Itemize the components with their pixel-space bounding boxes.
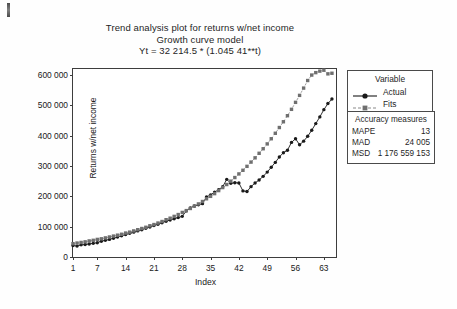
data-point bbox=[241, 169, 244, 172]
x-tick-mark bbox=[296, 257, 297, 260]
y-tick-label: 300 000 bbox=[38, 161, 68, 171]
data-point bbox=[71, 242, 74, 245]
data-point bbox=[112, 234, 115, 237]
data-point bbox=[302, 86, 305, 89]
data-point bbox=[108, 235, 111, 238]
data-point bbox=[233, 181, 236, 184]
x-tick-label: 42 bbox=[234, 263, 243, 273]
data-point bbox=[306, 135, 309, 138]
data-point bbox=[79, 241, 82, 244]
accuracy-key-msd: MSD bbox=[352, 148, 370, 159]
legend-item-actual[interactable]: Actual bbox=[352, 86, 428, 98]
data-point bbox=[314, 71, 317, 74]
data-point bbox=[282, 120, 285, 123]
data-point bbox=[274, 161, 277, 164]
data-point bbox=[205, 197, 208, 200]
legend-title: Variable bbox=[352, 74, 428, 84]
y-tick-label: 100 000 bbox=[38, 222, 68, 232]
data-point bbox=[96, 241, 99, 244]
y-tick-mark bbox=[70, 136, 73, 137]
legend-box: Variable Actual Fits bbox=[347, 70, 433, 115]
data-point bbox=[177, 213, 180, 216]
data-point bbox=[221, 186, 224, 189]
data-point bbox=[274, 132, 277, 135]
legend-key-fits-icon bbox=[352, 99, 378, 109]
data-point bbox=[270, 137, 273, 140]
data-point bbox=[213, 192, 216, 195]
x-tick-label: 63 bbox=[319, 263, 328, 273]
x-tick-label: 1 bbox=[71, 263, 76, 273]
chart-title-equation: Yt = 32 214.5 * (1.045 41**t) bbox=[0, 45, 400, 57]
y-tick-mark bbox=[70, 105, 73, 106]
chart-title-line1: Trend analysis plot for returns w/net in… bbox=[0, 22, 400, 34]
data-point bbox=[233, 176, 236, 179]
plot-area: Returns w/net income Index 0100 000200 0… bbox=[72, 68, 337, 258]
data-point bbox=[177, 216, 180, 219]
y-tick-label: 200 000 bbox=[38, 191, 68, 201]
accuracy-row-mape: MAPE 13 bbox=[352, 126, 430, 137]
data-point bbox=[172, 215, 175, 218]
y-tick-label: 600 000 bbox=[38, 70, 68, 80]
data-point bbox=[306, 79, 309, 82]
accuracy-value-msd: 1 176 559 153 bbox=[378, 148, 430, 159]
data-point bbox=[322, 108, 325, 111]
data-point bbox=[164, 218, 167, 221]
data-point bbox=[253, 156, 256, 159]
data-point bbox=[286, 149, 289, 152]
data-point bbox=[124, 231, 127, 234]
y-tick-mark bbox=[70, 75, 73, 76]
data-point bbox=[75, 244, 78, 247]
data-point bbox=[75, 241, 78, 244]
data-point bbox=[245, 165, 248, 168]
accuracy-measures-box: Accuracy measures MAPE 13 MAD 24 005 MSD… bbox=[347, 111, 435, 164]
data-point bbox=[253, 181, 256, 184]
data-point bbox=[290, 108, 293, 111]
data-point bbox=[266, 142, 269, 145]
chart-title-line2: Growth curve model bbox=[0, 34, 400, 46]
data-point bbox=[298, 143, 301, 146]
y-tick-label: 400 000 bbox=[38, 131, 68, 141]
data-point bbox=[257, 178, 260, 181]
data-point bbox=[92, 239, 95, 242]
accuracy-value-mad: 24 005 bbox=[405, 137, 430, 148]
legend-key-actual-icon bbox=[352, 87, 378, 97]
data-point bbox=[249, 185, 252, 188]
accuracy-title: Accuracy measures bbox=[352, 115, 430, 124]
data-point bbox=[144, 226, 147, 229]
data-point bbox=[140, 227, 143, 230]
data-point bbox=[278, 126, 281, 129]
y-tick-mark bbox=[70, 166, 73, 167]
data-point bbox=[83, 240, 86, 243]
data-point bbox=[298, 94, 301, 97]
data-point bbox=[87, 239, 90, 242]
x-tick-label: 35 bbox=[206, 263, 215, 273]
x-tick-label: 56 bbox=[291, 263, 300, 273]
data-point bbox=[318, 115, 321, 118]
legend-item-fits[interactable]: Fits bbox=[352, 98, 428, 110]
data-point bbox=[302, 139, 305, 142]
data-point bbox=[249, 160, 252, 163]
x-tick-mark bbox=[267, 257, 268, 260]
data-point bbox=[294, 137, 297, 140]
x-tick-label: 28 bbox=[178, 263, 187, 273]
data-point bbox=[160, 220, 163, 223]
data-point bbox=[185, 209, 188, 212]
data-point bbox=[168, 216, 171, 219]
data-point bbox=[148, 224, 151, 227]
accuracy-value-mape: 13 bbox=[421, 126, 430, 137]
data-point bbox=[286, 114, 289, 117]
data-point bbox=[257, 152, 260, 155]
x-tick-mark bbox=[154, 257, 155, 260]
data-point bbox=[326, 72, 329, 75]
x-tick-mark bbox=[211, 257, 212, 260]
data-point bbox=[294, 101, 297, 104]
data-point bbox=[217, 189, 220, 192]
data-point bbox=[330, 72, 333, 75]
data-point bbox=[237, 181, 240, 184]
data-point bbox=[152, 223, 155, 226]
data-point bbox=[181, 211, 184, 214]
chart-screenshot: Trend analysis plot for returns w/net in… bbox=[0, 0, 457, 309]
data-point bbox=[189, 207, 192, 210]
data-point bbox=[92, 242, 95, 245]
accuracy-row-msd: MSD 1 176 559 153 bbox=[352, 148, 430, 159]
